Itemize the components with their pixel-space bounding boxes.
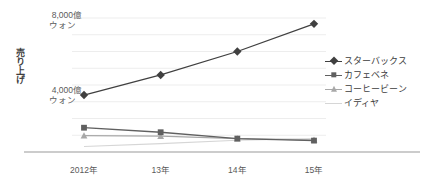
legend-label-ediya: イディヤ bbox=[344, 97, 379, 109]
legend: スターバックス カフェベネ コーヒービーン イディヤ bbox=[325, 54, 433, 110]
legend-marker-diamond-icon bbox=[325, 55, 342, 67]
y-axis-tick-8000: 8,000億 ウォン bbox=[20, 10, 82, 30]
legend-label-caffebene: カフェベネ bbox=[344, 69, 389, 81]
legend-item-starbucks: スターバックス bbox=[325, 54, 433, 68]
gridlines bbox=[72, 18, 326, 135]
y-axis-tick-4000-unit: ウォン bbox=[20, 95, 82, 105]
series-2 bbox=[81, 132, 318, 143]
y-axis-tick-4000-value: 4,000億 bbox=[20, 85, 82, 95]
y-axis-tick-8000-value: 8,000億 bbox=[20, 10, 82, 20]
legend-marker-triangle-icon bbox=[325, 83, 342, 95]
legend-item-caffebene: カフェベネ bbox=[325, 68, 433, 82]
line-chart: 売り上げ 8,000億 ウォン 4,000億 ウォン 2012年 13年 14年… bbox=[0, 0, 436, 190]
legend-label-starbucks: スターバックス bbox=[344, 55, 407, 67]
y-axis-title: 売り上げ bbox=[9, 48, 25, 84]
legend-item-ediya: イディヤ bbox=[325, 96, 433, 110]
x-axis-tick-14: 14年 bbox=[210, 163, 264, 175]
y-axis-tick-8000-unit: ウォン bbox=[20, 20, 82, 30]
x-axis-tick-2012: 2012年 bbox=[57, 163, 111, 175]
series-1 bbox=[81, 125, 317, 144]
y-axis-tick-4000: 4,000億 ウォン bbox=[20, 85, 82, 105]
x-axis-tick-15: 15年 bbox=[287, 163, 341, 175]
x-axis-tick-13: 13年 bbox=[134, 163, 188, 175]
legend-label-coffeebean: コーヒービーン bbox=[344, 83, 407, 95]
legend-marker-line-icon bbox=[325, 97, 342, 109]
legend-marker-square-icon bbox=[325, 69, 342, 81]
legend-item-coffeebean: コーヒービーン bbox=[325, 82, 433, 96]
series-0 bbox=[80, 20, 318, 100]
